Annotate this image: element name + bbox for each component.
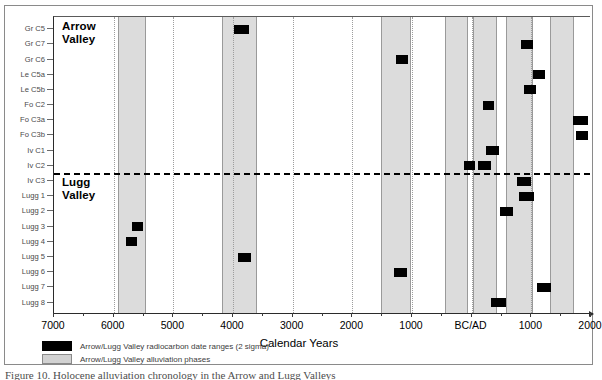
radiocarbon-range-bar — [478, 161, 492, 170]
x-axis-minor-tick — [262, 313, 263, 316]
y-axis-label-lugg-4: Lugg 4 — [7, 236, 45, 245]
y-axis-label-lugg-3: Lugg 3 — [7, 221, 45, 230]
y-axis-tick — [47, 134, 53, 135]
x-axis-line — [53, 313, 593, 314]
x-axis-minor-tick — [501, 313, 502, 316]
legend-label-alluviation: Arrow/Lugg Valley alluviation phases — [80, 355, 210, 364]
radiocarbon-range-bar — [533, 70, 546, 79]
y-axis-tick — [47, 165, 53, 166]
gridline — [173, 17, 174, 313]
x-axis-tick-label: 7000 — [41, 319, 64, 331]
legend-label-radiocarbon: Arrow/Lugg Valley radiocarbon date range… — [80, 342, 269, 351]
radiocarbon-range-bar — [519, 192, 533, 201]
x-axis-tick-label: 1000 — [519, 319, 542, 331]
y-axis-tick — [47, 180, 53, 181]
radiocarbon-range-bar — [483, 101, 494, 110]
plot-area: Arrow ValleyLugg Valley — [53, 16, 590, 313]
alluviation-band — [118, 17, 147, 313]
radiocarbon-range-bar — [394, 268, 408, 277]
gridline — [114, 17, 115, 313]
x-axis-tick — [590, 313, 591, 317]
x-axis-tick-label: 6000 — [101, 319, 124, 331]
y-axis-label-fo-c2: Fo C2 — [7, 100, 45, 109]
radiocarbon-range-bar — [486, 146, 499, 155]
y-axis-label-lugg-7: Lugg 7 — [7, 282, 45, 291]
y-axis-label-le-c5a: Le C5a — [7, 69, 45, 78]
x-axis-tick-label: 4000 — [220, 319, 243, 331]
y-axis-tick — [47, 286, 53, 287]
radiocarbon-range-bar — [132, 222, 143, 231]
radiocarbon-range-bar — [576, 131, 588, 140]
x-axis-tick-label: 5000 — [161, 319, 184, 331]
y-axis-label-iv-c1: Iv C1 — [7, 145, 45, 154]
group-label-arrow-valley: Arrow Valley — [62, 20, 96, 46]
gridline — [233, 17, 234, 313]
x-axis-tick-label: BC/AD — [455, 319, 487, 331]
x-axis-minor-tick — [560, 313, 561, 316]
radiocarbon-range-bar — [238, 253, 251, 262]
legend-swatch-black-icon — [42, 341, 72, 351]
x-axis-minor-tick — [202, 313, 203, 316]
radiocarbon-range-bar — [464, 161, 475, 170]
valley-group-divider — [54, 173, 590, 175]
x-axis-tick-label: 2000 — [340, 319, 363, 331]
radiocarbon-range-bar — [500, 207, 513, 216]
x-axis-minor-tick — [83, 313, 84, 316]
x-axis-tick — [292, 313, 293, 317]
x-axis-minor-tick — [441, 313, 442, 316]
radiocarbon-range-bar — [573, 116, 588, 125]
y-axis-label-gr-c7: Gr C7 — [7, 39, 45, 48]
gridline — [412, 17, 413, 313]
radiocarbon-range-bar — [234, 25, 248, 34]
y-axis-tick — [47, 271, 53, 272]
alluviation-band — [550, 17, 574, 313]
y-axis-tick — [47, 241, 53, 242]
y-axis-label-fo-c3b: Fo C3b — [7, 130, 45, 139]
y-axis-tick — [47, 195, 53, 196]
y-axis-label-fo-c3a: Fo C3a — [7, 115, 45, 124]
y-axis-tick — [47, 119, 53, 120]
y-axis-tick — [47, 256, 53, 257]
legend-item-alluviation: Arrow/Lugg Valley alluviation phases — [42, 354, 210, 364]
radiocarbon-range-bar — [537, 283, 551, 292]
figure-caption: Figure 10. Holocene alluviation chronolo… — [5, 369, 595, 380]
alluviation-band — [506, 17, 533, 313]
alluviation-band — [222, 17, 257, 313]
y-axis-tick — [47, 59, 53, 60]
y-axis-tick — [47, 104, 53, 105]
y-axis-tick — [47, 43, 53, 44]
y-axis-label-lugg-1: Lugg 1 — [7, 191, 45, 200]
x-axis-tick — [113, 313, 114, 317]
x-axis-tick — [530, 313, 531, 317]
x-axis-minor-tick — [143, 313, 144, 316]
y-axis-tick — [47, 210, 53, 211]
x-axis-tick — [351, 313, 352, 317]
y-axis-tick — [47, 74, 53, 75]
x-axis-tick — [411, 313, 412, 317]
y-axis-label-le-c5b: Le C5b — [7, 84, 45, 93]
x-axis-minor-tick — [322, 313, 323, 316]
y-axis-tick — [47, 302, 53, 303]
x-axis-tick — [471, 313, 472, 317]
x-axis-tick — [53, 313, 54, 317]
x-axis-tick — [232, 313, 233, 317]
y-axis-tick — [47, 28, 53, 29]
y-axis-label-iv-c2: Iv C2 — [7, 160, 45, 169]
x-axis-tick — [172, 313, 173, 317]
radiocarbon-range-bar — [521, 40, 534, 49]
radiocarbon-range-bar — [524, 85, 536, 94]
y-axis-label-iv-c3: Iv C3 — [7, 176, 45, 185]
radiocarbon-range-bar — [491, 298, 507, 307]
radiocarbon-range-bar — [126, 237, 137, 246]
legend-item-radiocarbon: Arrow/Lugg Valley radiocarbon date range… — [42, 341, 269, 351]
x-axis-tick-label: 1000 — [399, 319, 422, 331]
y-axis-tick — [47, 150, 53, 151]
x-axis-tick-label: 2000 — [578, 319, 601, 331]
y-axis-label-gr-c5: Gr C5 — [7, 24, 45, 33]
group-label-lugg-valley: Lugg Valley — [62, 176, 95, 202]
y-axis-label-lugg-6: Lugg 6 — [7, 267, 45, 276]
gridline — [531, 17, 532, 313]
radiocarbon-range-bar — [396, 55, 409, 64]
gridline — [352, 17, 353, 313]
